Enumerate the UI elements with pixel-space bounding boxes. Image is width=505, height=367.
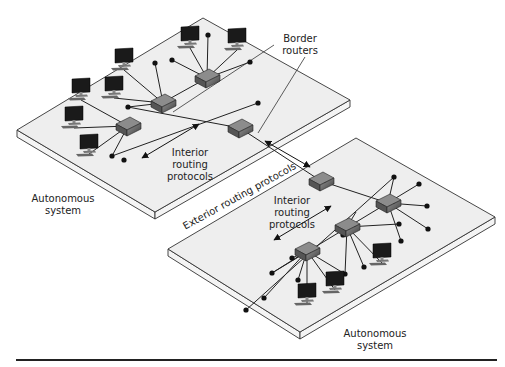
routing-diagram: Border routers Interior routing protocol…	[0, 0, 505, 367]
host-node	[396, 221, 401, 226]
host-node	[109, 153, 114, 158]
host-node	[269, 270, 274, 275]
host-node	[121, 157, 126, 162]
host-node	[243, 307, 248, 312]
autonomous-system-label-top: Autonomous system	[28, 193, 98, 217]
border-routers-label: Border routers	[275, 33, 325, 57]
host-node	[152, 60, 157, 65]
host-node	[416, 181, 421, 186]
host-node	[125, 104, 130, 109]
host-node	[255, 100, 260, 105]
host-node	[169, 57, 174, 62]
host-node	[398, 238, 403, 243]
host-node	[295, 277, 300, 282]
host-node	[361, 264, 366, 269]
host-node	[247, 59, 252, 64]
host-node	[205, 32, 210, 37]
host-node	[391, 174, 396, 179]
autonomous-system-label-bottom: Autonomous system	[340, 328, 410, 352]
host-node	[289, 255, 294, 260]
host-node	[261, 295, 266, 300]
host-node	[424, 203, 429, 208]
interior-routing-label-top: Interior routing protocols	[160, 147, 220, 183]
interior-routing-label-bottom: Interior routing protocols	[262, 195, 322, 231]
host-node	[425, 226, 430, 231]
